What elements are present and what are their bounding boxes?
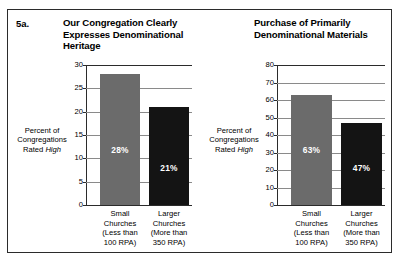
chart-panel-left: Our Congregation Clearly Expresses Denom… (8, 10, 200, 252)
y-tick-label: 30 (75, 61, 83, 69)
y-tick-mark (274, 118, 277, 119)
y-tick-label: 30 (266, 149, 274, 157)
bar: 21% (149, 107, 189, 205)
y-tick-mark (274, 205, 277, 206)
chart-panel-right: Purchase of Primarily Denominational Mat… (201, 10, 393, 252)
y-tick-label: 10 (266, 184, 274, 192)
y-tick-label: 40 (266, 131, 274, 139)
gridline (277, 65, 385, 66)
y-axis-caption-line-2: Congregations (17, 135, 66, 144)
bar-value-label: 63% (291, 145, 332, 155)
y-axis-caption-line-3: Rated (23, 145, 45, 154)
y-axis-caption-emphasis: High (237, 145, 253, 154)
y-axis-caption-line-3: Rated (215, 145, 237, 154)
y-tick-mark (83, 112, 86, 113)
gridline (86, 65, 192, 66)
bar: 28% (100, 74, 140, 205)
y-axis-caption-left: Percent of Congregations Rated High (10, 126, 74, 154)
y-tick-label: 0 (270, 201, 274, 209)
y-tick-mark (274, 65, 277, 66)
y-tick-label: 20 (266, 166, 274, 174)
bar-value-label: 28% (100, 145, 140, 155)
y-tick-mark (274, 153, 277, 154)
bar: 63% (291, 95, 332, 205)
chart-title-left: Our Congregation Clearly Expresses Denom… (63, 17, 203, 52)
y-tick-mark (274, 83, 277, 84)
bar-value-label: 47% (341, 163, 382, 173)
gridline (86, 205, 192, 206)
y-axis-caption-emphasis: High (45, 145, 61, 154)
y-tick-mark (274, 188, 277, 189)
y-axis-caption-line-1: Percent of (217, 126, 252, 135)
gridline (277, 205, 385, 206)
y-tick-label: 70 (266, 79, 274, 87)
y-tick-mark (274, 100, 277, 101)
y-tick-mark (83, 205, 86, 206)
y-tick-label: 60 (266, 96, 274, 104)
bar: 47% (341, 123, 382, 205)
y-tick-label: 10 (75, 154, 83, 162)
y-tick-mark (83, 158, 86, 159)
y-tick-mark (83, 88, 86, 89)
y-axis-caption-line-1: Percent of (25, 126, 60, 135)
plot-area-right: 0102030405060708063%Small Churches (Less… (277, 65, 385, 205)
bar-value-label: 21% (149, 163, 189, 173)
y-tick-label: 80 (266, 61, 274, 69)
y-tick-label: 0 (79, 201, 83, 209)
y-tick-label: 15 (75, 131, 83, 139)
y-tick-label: 50 (266, 114, 274, 122)
x-category-label: Larger Churches (More than 350 RPA) (331, 209, 392, 247)
figure-frame: 5a. Our Congregation Clearly Expresses D… (7, 9, 392, 253)
y-tick-mark (83, 65, 86, 66)
y-tick-mark (83, 182, 86, 183)
y-tick-label: 5 (79, 178, 83, 186)
chart-title-right: Purchase of Primarily Denominational Mat… (254, 17, 394, 40)
y-tick-label: 25 (75, 84, 83, 92)
y-tick-mark (274, 135, 277, 136)
y-axis-caption-right: Percent of Congregations Rated High (202, 126, 266, 154)
y-tick-mark (83, 135, 86, 136)
y-tick-label: 20 (75, 108, 83, 116)
y-tick-mark (274, 170, 277, 171)
plot-area-left: 05101520253028%Small Churches (Less than… (86, 65, 192, 205)
gridline (277, 83, 385, 84)
x-category-label: Larger Churches (More than 350 RPA) (139, 209, 199, 247)
y-axis-caption-line-2: Congregations (209, 135, 258, 144)
